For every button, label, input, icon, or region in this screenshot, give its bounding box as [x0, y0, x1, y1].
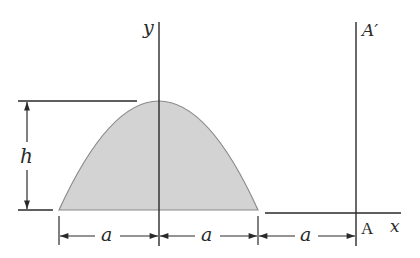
x-axis-label: x — [390, 216, 400, 236]
dim1-label: a — [101, 223, 112, 245]
dim2-label: a — [201, 223, 212, 245]
y-axis-label: y — [142, 16, 154, 38]
a-prime-label: A′ — [360, 20, 378, 40]
dim3-label: a — [300, 223, 311, 245]
height-label: h — [20, 144, 33, 168]
parabolic-area-diagram: y A′ A x h a a a — [0, 0, 420, 258]
point-a-label: A — [361, 219, 374, 238]
